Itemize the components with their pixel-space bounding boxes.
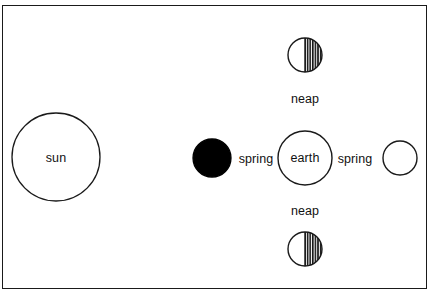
full-moon-body	[383, 141, 417, 175]
sun-label: sun	[46, 152, 66, 165]
neap-tide-label-top: neap	[291, 93, 319, 106]
spring-tide-label-right: spring	[338, 153, 373, 166]
tide-diagram-svg	[0, 0, 436, 296]
new-moon-body	[193, 139, 231, 177]
diagram-canvas: sun earth spring spring neap neap	[0, 0, 436, 296]
bottom-quarter-moon-body	[288, 232, 322, 266]
spring-tide-label-left: spring	[239, 153, 274, 166]
earth-label: earth	[291, 152, 320, 165]
neap-tide-label-bottom: neap	[291, 205, 319, 218]
top-quarter-moon-body	[288, 38, 322, 72]
